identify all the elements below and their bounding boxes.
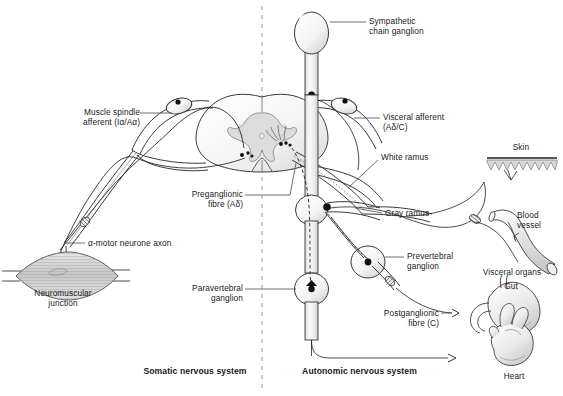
label-preganglionic-fibre: Preganglionic fibre (Aδ) (150, 189, 243, 209)
myelin-node-marker-somatic (79, 216, 92, 229)
label-gray-ramus: Gray ramus (385, 208, 475, 218)
label-white-ramus: White ramus (381, 152, 471, 162)
label-neuromuscular-junction: Neuromuscular junction (11, 288, 115, 308)
label-blood-vessel: Blood vessel (517, 210, 563, 230)
section-title-autonomic: Autonomic nervous system (277, 366, 442, 376)
label-visceral-afferent: Visceral afferent (Aδ/C) (383, 112, 493, 132)
label-muscle-spindle-afferent: Muscle spindle afferent (Iα/Aα) (42, 107, 140, 127)
label-gut: Gut (496, 281, 526, 291)
nervous-system-diagram (0, 0, 563, 396)
label-sympathetic-chain-ganglion: Sympathetic chain ganglion (369, 16, 489, 36)
label-heart: Heart (496, 371, 532, 381)
skin-illustration (487, 158, 557, 180)
label-skin: Skin (500, 142, 542, 152)
myelin-node-marker-splanchnic (384, 275, 397, 288)
section-title-somatic: Somatic nervous system (120, 366, 270, 376)
figure-canvas: Muscle spindle afferent (Iα/Aα) α-motor … (0, 0, 563, 396)
label-postganglionic-fibre: Postganglionic fibre (C) (343, 308, 439, 328)
label-paravertebral-ganglion: Paravertebral ganglion (150, 283, 243, 303)
sympathetic-chain (292, 10, 331, 356)
label-alpha-motor-neurone-axon: α-motor neurone axon (88, 238, 208, 248)
label-visceral-organs: Visceral organs (466, 267, 558, 277)
